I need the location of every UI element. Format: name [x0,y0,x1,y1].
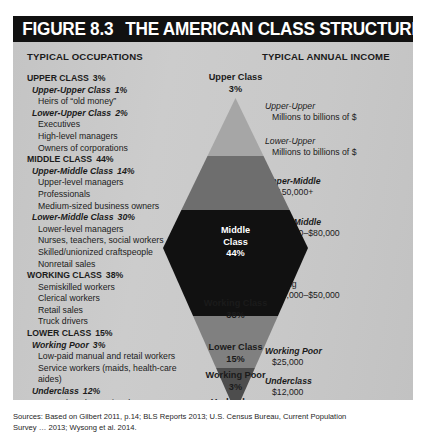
occupation-percent: 12% [83,386,100,396]
occupation-label: Lower-Upper Class [32,108,111,118]
occupation-percent: 38% [106,270,123,280]
diamond-band-name-2: Class [223,237,248,247]
occupation-label: Lower-level managers [38,224,123,234]
diamond-band-percent: 3% [229,382,242,392]
occupation-label: Semiskilled workers [38,282,115,292]
occupation-percent: 44% [96,154,113,164]
occupation-label: Working Poor [32,340,89,350]
occupation-label: Low-paid manual and retail workers [38,351,175,361]
sources-note: Sources: Based on Gilbert 2011, p.14; BL… [13,412,415,433]
occupation-label: Owners of corporations [38,143,128,153]
sources-line-2: Survey … 2013; Wysong et al. 2014. [13,423,415,434]
diamond-label-middle-class: MiddleClass44% [163,225,308,260]
figure-number: FIGURE 8.3 [22,18,113,39]
occupation-label: Nonretail sales [38,259,95,269]
diamond-band-percent: 38% [226,310,244,320]
occupation-label: Professionals [38,189,90,199]
diamond-label-working-class: Working Class38% [163,298,308,321]
occupation-label: Clerical workers [38,293,100,303]
occupation-label: High-level managers [38,131,118,141]
occupation-label: LOWER CLASS [27,328,91,338]
diamond-band-name: Middle [221,225,250,235]
occupation-label: Executives [38,119,80,129]
diamond-band-percent: 15% [226,354,244,364]
figure-title-bar: FIGURE 8.3THE AMERICAN CLASS STRUCTURE [13,16,413,42]
occupation-label: Upper-Middle Class [32,166,113,176]
occupation-percent: 3% [93,73,106,83]
band-upper-class [163,50,308,156]
diamond-band-name: Working Class [204,298,268,308]
diamond-band-name: Lower Class [208,342,262,352]
occupation-label: Heirs of “old money” [38,96,116,106]
diamond-label-underclass: Underclass12% [163,397,308,400]
diamond-label-lower-class: Lower Class15% [163,342,308,365]
diamond-band-name: Working Poor [205,370,265,380]
occupation-label: UPPER CLASS [27,73,89,83]
diamond-band-percent: 44% [226,248,244,258]
occupation-label: Service workers (maids, health-care [38,363,177,373]
occupation-percent: 1% [115,85,128,95]
diamond-band-name: Underclass [211,397,261,400]
occupation-label: Unemployed, part-time low wage [38,398,165,400]
diamond-label-upper-class: Upper Class3% [163,72,308,95]
sources-line-1: Sources: Based on Gilbert 2011, p.14; BL… [13,412,415,423]
occupation-label: Truck drivers [38,316,88,326]
occupation-percent: 30% [118,212,135,222]
band-upper-middle [163,156,308,210]
occupation-percent: 2% [115,108,128,118]
occupation-percent: 15% [95,328,112,338]
occupation-label: Medium-sized business owners [38,201,159,211]
figure-title-text: THE AMERICAN CLASS STRUCTURE [125,18,422,39]
occupation-label: Nurses, teachers, social workers [38,235,164,245]
diamond-label-working-poor: Working Poor3% [163,370,308,393]
occupation-label: MIDDLE CLASS [27,154,92,164]
occupation-label: Upper-level managers [38,177,123,187]
occupation-label: aides) [38,374,62,384]
diamond-band-name: Upper Class [209,72,263,82]
figure-body-panel: TYPICAL OCCUPATIONS TYPICAL ANNUAL INCOM… [13,42,413,400]
occupation-label: Lower-Middle Class [32,212,114,222]
occupation-label: Upper-Upper Class [32,85,111,95]
occupation-label: WORKING CLASS [27,270,102,280]
figure-title: FIGURE 8.3THE AMERICAN CLASS STRUCTURE [13,18,423,40]
class-structure-diamond: Upper Class3% MiddleClass44% Working Cla… [163,50,308,400]
occupation-label: Skilled/unionized craftspeople [38,247,153,257]
column-header-occupations: TYPICAL OCCUPATIONS [27,51,143,62]
occupation-percent: 3% [93,340,106,350]
occupation-label: Underclass [32,386,79,396]
diamond-band-percent: 3% [229,84,242,94]
occupation-percent: 14% [117,166,134,176]
occupation-label: Retail sales [38,305,83,315]
